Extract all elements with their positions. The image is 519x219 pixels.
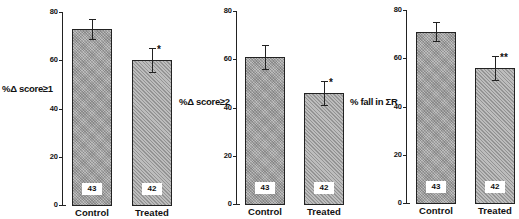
x-category-label: Treated	[127, 207, 177, 218]
y-tick-label: 0	[40, 200, 58, 209]
y-tick-label: 80	[40, 7, 58, 16]
y-tick-label: 60	[40, 55, 58, 64]
y-tick-label: 80	[214, 6, 232, 15]
x-category-label: Treated	[299, 206, 349, 217]
y-tick-label: 0	[214, 199, 232, 208]
error-cap-bottom	[149, 72, 156, 73]
significance-marker: *	[157, 44, 161, 55]
y-tick-label: 20	[214, 151, 232, 160]
y-tick	[403, 10, 407, 11]
y-tick-label: 60	[214, 54, 232, 63]
x-category-label: Control	[67, 207, 117, 218]
sample-size-label: 42	[142, 183, 162, 195]
error-cap-top	[321, 81, 328, 82]
x-category-label: Treated	[470, 205, 519, 216]
y-tick-label: 80	[384, 5, 402, 14]
error-cap-bottom	[262, 69, 269, 70]
y-axis-label: %Δ score≥1	[2, 83, 53, 94]
error-cap-top	[492, 56, 499, 57]
y-tick	[233, 156, 237, 157]
y-tick-label: 20	[40, 152, 58, 161]
y-tick-label: 40	[384, 102, 402, 111]
sample-size-label: 43	[426, 181, 446, 193]
bar-control	[72, 29, 112, 206]
y-tick	[403, 203, 407, 204]
error-cap-bottom	[433, 41, 440, 42]
y-tick	[233, 11, 237, 12]
y-tick	[59, 12, 63, 13]
error-cap-top	[89, 19, 96, 20]
y-tick-label: 60	[384, 53, 402, 62]
error-cap-bottom	[321, 105, 328, 106]
bar-control	[416, 32, 456, 204]
y-tick-label: 0	[384, 198, 402, 207]
sample-size-label: 42	[314, 182, 334, 194]
error-bar	[265, 45, 266, 69]
sample-size-label: 42	[485, 181, 505, 193]
y-tick	[233, 59, 237, 60]
y-tick	[59, 109, 63, 110]
y-tick	[403, 107, 407, 108]
error-bar	[495, 56, 496, 80]
error-bar	[324, 81, 325, 105]
error-bar	[436, 22, 437, 41]
error-cap-bottom	[89, 39, 96, 40]
y-tick-label: 40	[214, 103, 232, 112]
y-tick-label: 20	[384, 150, 402, 159]
y-tick	[233, 108, 237, 109]
y-tick	[233, 204, 237, 205]
y-tick	[59, 205, 63, 206]
error-bar	[92, 19, 93, 38]
y-tick	[403, 155, 407, 156]
sample-size-label: 43	[82, 183, 102, 195]
error-cap-top	[149, 48, 156, 49]
significance-marker: **	[500, 52, 508, 63]
sample-size-label: 43	[255, 182, 275, 194]
x-category-label: Control	[240, 206, 290, 217]
y-tick	[59, 60, 63, 61]
error-cap-bottom	[492, 80, 499, 81]
y-tick	[59, 157, 63, 158]
y-tick-label: 40	[40, 104, 58, 113]
error-cap-top	[262, 45, 269, 46]
y-tick	[403, 58, 407, 59]
significance-marker: *	[329, 77, 333, 88]
error-bar	[152, 48, 153, 72]
error-cap-top	[433, 22, 440, 23]
x-category-label: Control	[411, 205, 461, 216]
